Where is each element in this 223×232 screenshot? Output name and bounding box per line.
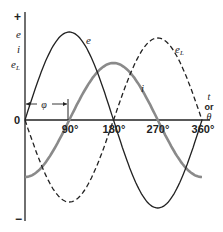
minus-label: − [15, 212, 22, 226]
y-label-eL: eL [11, 58, 20, 72]
tick-360: 360° [192, 123, 215, 135]
tick-180: 180° [103, 123, 126, 135]
phase-angle-marker: φ [26, 99, 68, 120]
phase-diagram: φ + − e i eL 0 90° 180° 270° 360° t or θ… [0, 0, 223, 232]
phi-label: φ [41, 99, 47, 110]
tick-90: 90° [62, 123, 79, 135]
origin-label: 0 [14, 114, 20, 126]
curve-label-e: e [86, 34, 91, 46]
x-label-theta: θ [207, 111, 212, 122]
arrow-left-icon [26, 102, 30, 106]
y-label-e: e [16, 28, 21, 40]
y-label-i: i [17, 43, 20, 55]
x-label-t: t [208, 91, 211, 102]
plus-label: + [14, 10, 21, 24]
arrow-right-icon [63, 102, 67, 106]
curve-label-eL: eL [175, 43, 184, 57]
tick-270: 270° [147, 123, 170, 135]
curve-label-i: i [141, 82, 144, 94]
